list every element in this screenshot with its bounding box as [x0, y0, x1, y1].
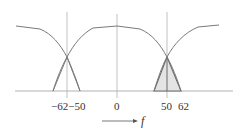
- frequency-arrow-head-icon: [133, 119, 138, 123]
- left-cross-line-a: [53, 57, 67, 91]
- tick-label-0: 0: [114, 100, 120, 112]
- tick-label-neg62-neg50: −62−50: [51, 100, 86, 112]
- spectrum-curve-left: [16, 26, 80, 91]
- spectrum-diagram: −62−50 0 50 62 f: [0, 0, 241, 133]
- frequency-axis-label: f: [141, 114, 146, 128]
- left-cross-line-b: [67, 57, 80, 91]
- tick-label-50: 50: [161, 100, 173, 112]
- tick-label-62: 62: [178, 100, 189, 112]
